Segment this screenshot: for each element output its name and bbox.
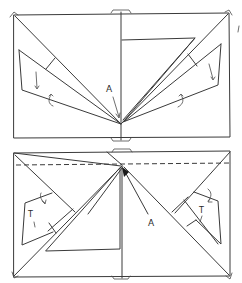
top-panel: A [10, 10, 239, 141]
top-right-diagonal [121, 14, 228, 124]
top-right-curved-arrow [178, 95, 183, 107]
bottom-right-curved-arrow-head [208, 199, 212, 202]
folding-diagram: A [0, 0, 242, 283]
top-right-stray-mark [238, 26, 239, 32]
bottom-right-label-t: T [198, 206, 204, 215]
bottom-right-flap-crease-1 [172, 197, 188, 212]
bottom-right-flap-crease-2 [187, 220, 196, 226]
bottom-left-top-to-center [107, 152, 122, 165]
bottom-left-flap [22, 193, 53, 245]
top-right-corner-tab [225, 10, 232, 15]
bottom-lower-left-flap [46, 168, 120, 251]
top-left-flap-mark [36, 72, 37, 88]
bottom-right-t-mark [200, 216, 202, 222]
top-label-a: A [106, 84, 113, 94]
top-right-flap-crease [188, 54, 197, 66]
top-right-flap-edge [125, 44, 221, 121]
top-left-diagonal [15, 16, 121, 124]
bottom-label-a: A [148, 218, 155, 228]
bottom-left-label-t: T [27, 210, 33, 219]
bottom-right-long-diagonal [124, 167, 229, 275]
bottom-panel: T T A [12, 149, 232, 279]
bottom-left-t-mark [34, 222, 35, 227]
bottom-left-long-diagonal-2 [88, 168, 122, 214]
bottom-dashed-fold-line [16, 163, 232, 165]
top-panel-outline [14, 13, 230, 138]
bottom-left-long-diagonal [14, 166, 122, 276]
bottom-center-to-a [124, 170, 148, 214]
bottom-right-top-diagonal [175, 152, 230, 213]
top-left-flap-crease [46, 58, 55, 69]
